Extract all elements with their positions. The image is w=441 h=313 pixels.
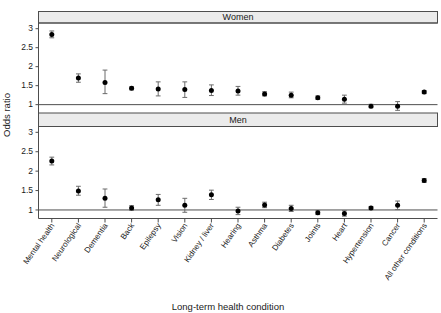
odds-ratio-point — [315, 95, 320, 100]
odds-ratio-point — [209, 192, 214, 197]
odds-ratio-point — [103, 80, 108, 85]
odds-ratio-point — [315, 210, 320, 215]
odds-ratio-point — [129, 206, 134, 211]
y-axis-tick-label: 3 — [28, 127, 33, 137]
odds-ratio-point — [209, 88, 214, 93]
odds-ratio-point — [289, 93, 294, 98]
odds-ratio-point — [236, 88, 241, 93]
odds-ratio-point — [395, 203, 400, 208]
odds-ratio-point — [103, 196, 108, 201]
odds-ratio-point — [289, 206, 294, 211]
x-axis-title: Long-term health condition — [172, 301, 285, 312]
odds-ratio-point — [369, 206, 374, 211]
y-axis-tick-label: 1.5 — [21, 185, 33, 195]
y-axis-tick-label: 2 — [28, 166, 33, 176]
odds-ratio-point — [342, 97, 347, 102]
odds-ratio-point — [76, 188, 81, 193]
data-point-group — [315, 210, 320, 215]
odds-ratio-figure: Women11.522.53Men11.522.53Mental healthN… — [0, 0, 441, 313]
data-point-group — [129, 206, 134, 211]
odds-ratio-point — [182, 87, 187, 92]
odds-ratio-point — [49, 159, 54, 164]
panel-strip-label: Men — [229, 115, 247, 125]
y-axis-tick-label: 3 — [28, 23, 33, 33]
odds-ratio-point — [156, 87, 161, 92]
chart-canvas: Women11.522.53Men11.522.53Mental healthN… — [0, 0, 441, 313]
odds-ratio-point — [262, 92, 267, 97]
odds-ratio-point — [369, 104, 374, 109]
y-axis-tick-label: 2 — [28, 61, 33, 71]
odds-ratio-point — [236, 209, 241, 214]
data-point-group — [129, 86, 134, 91]
y-axis-tick-label: 2.5 — [21, 146, 33, 156]
odds-ratio-point — [262, 202, 267, 207]
y-axis-tick-label: 1.5 — [21, 80, 33, 90]
data-point-group — [262, 92, 267, 97]
y-axis-title: Odds ratio — [1, 93, 12, 137]
y-axis-tick-label: 1 — [28, 205, 33, 215]
y-axis-tick-label: 1 — [28, 99, 33, 109]
data-point-group — [422, 90, 427, 95]
odds-ratio-point — [129, 86, 134, 91]
odds-ratio-point — [422, 178, 427, 183]
data-point-group — [422, 178, 427, 183]
odds-ratio-point — [76, 76, 81, 81]
odds-ratio-point — [156, 197, 161, 202]
chart-background — [0, 0, 441, 313]
data-point-group — [369, 104, 374, 109]
data-point-group — [369, 206, 374, 211]
odds-ratio-point — [395, 104, 400, 109]
odds-ratio-point — [182, 203, 187, 208]
y-axis-tick-label: 2.5 — [21, 42, 33, 52]
data-point-group — [315, 95, 320, 100]
odds-ratio-point — [49, 32, 54, 37]
odds-ratio-point — [422, 90, 427, 95]
odds-ratio-point — [342, 211, 347, 216]
panel-strip-label: Women — [223, 12, 254, 22]
